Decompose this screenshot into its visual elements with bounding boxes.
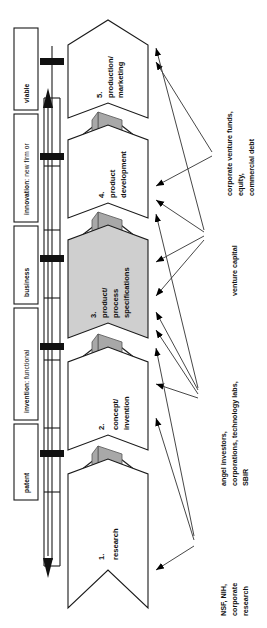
arrow-nsf-to-stage1 [156, 546, 194, 570]
funding-arrows [156, 48, 212, 570]
milestone-label-patent: patent [23, 472, 31, 493]
arrow-cvf-to-stage5 [156, 62, 212, 152]
funding-label-cvf-line2: equity, [236, 173, 245, 196]
funding-label-angel-line2: corporations, technology labs, [230, 381, 239, 486]
stage-label-3-text2: process [111, 289, 120, 318]
funding-label-angel-line3: SBIR [241, 468, 250, 486]
diagram-canvas: viable innovation: new firm or business … [0, 0, 267, 628]
funding-label-cvf-line3: commercial debt [247, 138, 256, 196]
stage-label-5-text1: production/ [106, 55, 115, 98]
tick-marker-viable [40, 58, 64, 65]
stage-label-2-text2: invention [122, 396, 131, 430]
innovation-pipeline-diagram: viable innovation: new firm or business … [0, 0, 267, 628]
milestone-label-innovation: innovation: new firm or [23, 142, 30, 215]
stage-label-5-text2: marketing [116, 61, 125, 98]
funding-label-vc: venture capital [230, 245, 239, 296]
stage-label-4-text2: development [119, 151, 128, 198]
tick-marker-business [40, 255, 64, 262]
funding-label-nsf-line3: research [241, 586, 250, 616]
funding-label-angel-line1: angel investors, [219, 431, 228, 486]
milestone-label-business: business [23, 267, 30, 297]
stage-label-3-number: 3. [89, 312, 98, 318]
stage-shape-1 [68, 459, 148, 608]
tick-marker-innovation [40, 153, 64, 160]
funding-label-nsf-line2: corporate [230, 583, 239, 616]
arrow-cvf-to-stage4 [156, 156, 212, 186]
stage-label-1-number: 1. [97, 554, 106, 560]
arrow-vc-to-stage4 [156, 200, 204, 232]
arrow-nsf-to-stage2 [156, 418, 194, 540]
funding-labels: corporate venture funds, equity, commerc… [219, 111, 256, 616]
stage-label-4-number: 4. [97, 192, 106, 198]
stage-label-2-text1: concept/ [111, 398, 120, 430]
stage-label-3-text3: specifications [122, 267, 131, 318]
arrow-vc-to-stage5 [156, 48, 204, 230]
stage-shape-3 [68, 225, 148, 338]
stage-label-2-number: 2. [97, 424, 106, 430]
stage-label-1-text1: research [111, 528, 120, 560]
milestone-label-invention: invention: functional [23, 349, 30, 413]
stage-shape-2 [68, 347, 148, 450]
tick-marker-patent [40, 450, 64, 457]
milestone-boxes: viable innovation: new firm or business … [14, 28, 38, 500]
process-stages: 5. production/ production/ marketing 4. … [68, 20, 148, 608]
milestone-label-viable: viable [23, 83, 30, 103]
arrow-angel-to-stage2 [156, 384, 198, 398]
stage-label-4-text1: product [108, 169, 117, 198]
stage-label-3-text1: product/ [100, 287, 109, 318]
funding-label-cvf-line1: corporate venture funds, [225, 111, 234, 196]
spine-arrow-down [43, 558, 53, 578]
tick-marker-invention [40, 343, 64, 350]
arrow-nsf-to-stage3 [156, 348, 194, 536]
stage-label-5-number: 5. [95, 92, 104, 98]
funding-label-nsf-line1: NSF, NIH, [219, 584, 228, 616]
arrow-vc-to-stage3b [156, 240, 204, 296]
timeline-spine [40, 46, 64, 578]
